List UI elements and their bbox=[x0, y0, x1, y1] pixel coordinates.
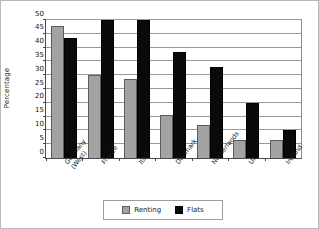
bar-renting bbox=[160, 115, 173, 158]
bar-renting bbox=[233, 140, 246, 158]
legend-swatch-icon-renting bbox=[122, 206, 130, 214]
y-axis-tick-label: 25 bbox=[35, 79, 44, 86]
bar-flats bbox=[64, 38, 77, 158]
legend-swatch-icon-flats bbox=[175, 206, 183, 214]
bar-flats bbox=[210, 67, 223, 158]
bar-group bbox=[155, 20, 191, 158]
legend-label-renting: Renting bbox=[134, 206, 161, 214]
x-axis-labels: Germany(West)FranceItalyDenmarkNetherlan… bbox=[45, 160, 302, 204]
x-axis-label-cell: Ireland bbox=[265, 160, 302, 204]
x-axis-label-cell: Denmark bbox=[155, 160, 192, 204]
bar-group bbox=[119, 20, 155, 158]
y-axis-tick-label: 50 bbox=[35, 10, 44, 17]
bar-group bbox=[192, 20, 228, 158]
y-axis-tick-label: 10 bbox=[35, 120, 44, 127]
y-axis-tick-label: 45 bbox=[35, 24, 44, 31]
bar-flats bbox=[173, 52, 186, 158]
bar-flats bbox=[101, 20, 114, 158]
bar-flats bbox=[137, 20, 150, 158]
x-axis-label-cell: Netherlands bbox=[192, 160, 229, 204]
y-axis-tick-label: 35 bbox=[35, 51, 44, 58]
bar-series-container bbox=[46, 20, 301, 158]
bar-renting bbox=[51, 26, 64, 158]
bar-flats bbox=[246, 103, 259, 158]
bar-group bbox=[46, 20, 82, 158]
legend-item-flats: Flats bbox=[175, 206, 204, 214]
y-axis-title: Percentage bbox=[3, 53, 11, 123]
bar-group bbox=[265, 20, 301, 158]
x-axis-label-cell: Germany(West) bbox=[45, 160, 82, 204]
bar-chart-figure: Percentage 05101520253035404550 Germany(… bbox=[0, 0, 319, 229]
legend-item-renting: Renting bbox=[122, 206, 161, 214]
x-axis-label-cell: Italy bbox=[118, 160, 155, 204]
y-axis-tick-label: 15 bbox=[35, 107, 44, 114]
bar-renting bbox=[124, 79, 137, 158]
chart-legend: Renting Flats bbox=[103, 200, 223, 220]
y-axis-tick-label: 40 bbox=[35, 38, 44, 45]
bar-group bbox=[82, 20, 118, 158]
y-axis-tick-label: 20 bbox=[35, 93, 44, 100]
bar-renting bbox=[270, 140, 283, 158]
legend-label-flats: Flats bbox=[187, 206, 204, 214]
y-axis-tick-label: 5 bbox=[40, 134, 44, 141]
x-axis-label-cell: Uk bbox=[229, 160, 266, 204]
y-axis-tick-label: 30 bbox=[35, 65, 44, 72]
y-axis-tick-label: 0 bbox=[40, 148, 44, 155]
x-axis-label-cell: France bbox=[82, 160, 119, 204]
